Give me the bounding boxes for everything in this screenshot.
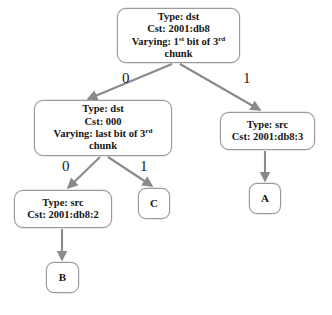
node-constraint-label: Cst: 000 bbox=[84, 116, 121, 128]
node-varying-label: Varying: 1st bit of 3rd chunk bbox=[122, 36, 235, 61]
tree-leaf-a[interactable]: A bbox=[249, 183, 281, 214]
tree-leaf-b[interactable]: B bbox=[46, 262, 79, 293]
node-constraint-label: Cst: 2001:db8:3 bbox=[232, 131, 303, 143]
ordinal-suffix-third: rd bbox=[145, 127, 152, 135]
leaf-label: B bbox=[59, 271, 66, 284]
node-type-label: Type: src bbox=[247, 119, 288, 131]
edge-label-left-leftleft: 0 bbox=[62, 159, 70, 174]
edge-root-to-left bbox=[88, 64, 172, 99]
ordinal-suffix-third: rd bbox=[218, 34, 225, 42]
tree-node-root[interactable]: Type: dst Cst: 2001:db8 Varying: 1st bit… bbox=[117, 8, 240, 63]
node-type-label: Type: dst bbox=[82, 103, 124, 115]
edge-label-root-right: 1 bbox=[243, 71, 251, 86]
tree-node-left[interactable]: Type: dst Cst: 000 Varying: last bit of … bbox=[34, 100, 172, 156]
edge-left-to-leftleft bbox=[68, 157, 100, 188]
edge-label-left-leafc: 1 bbox=[140, 159, 148, 174]
node-type-label: Type: dst bbox=[158, 11, 200, 23]
edge-label-root-left: 0 bbox=[122, 71, 130, 86]
decision-tree-diagram: Type: dst Cst: 2001:db8 Varying: 1st bit… bbox=[0, 0, 332, 315]
tree-node-left-left[interactable]: Type: src Cst: 2001:db8:2 bbox=[14, 190, 112, 228]
tree-leaf-c[interactable]: C bbox=[138, 188, 170, 219]
leaf-label: A bbox=[261, 192, 269, 205]
node-type-label: Type: src bbox=[42, 197, 83, 209]
node-varying-label: Varying: last bit of 3rd chunk bbox=[39, 128, 167, 153]
leaf-label: C bbox=[150, 197, 158, 210]
node-constraint-label: Cst: 2001:db8:2 bbox=[27, 209, 98, 221]
tree-node-right[interactable]: Type: src Cst: 2001:db8:3 bbox=[220, 112, 315, 150]
